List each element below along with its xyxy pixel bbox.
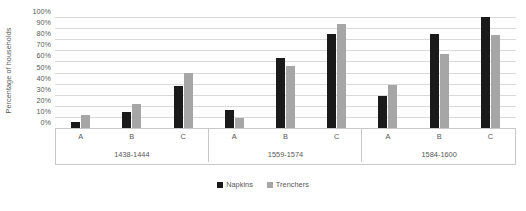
bar-napkins[interactable] bbox=[481, 17, 490, 128]
legend-item[interactable]: Trenchers bbox=[267, 180, 309, 189]
category-axis-label: B bbox=[260, 129, 311, 145]
category-axis-label: B bbox=[414, 129, 465, 145]
bar-group bbox=[362, 17, 516, 128]
legend-swatch-icon bbox=[217, 182, 223, 188]
bar-trenchers[interactable] bbox=[491, 35, 500, 128]
bar-category bbox=[414, 17, 465, 128]
chart-legend: NapkinsTrenchers bbox=[0, 180, 526, 189]
bar-trenchers[interactable] bbox=[440, 54, 449, 128]
bar-trenchers[interactable] bbox=[388, 85, 397, 128]
category-axis-label: C bbox=[157, 129, 208, 145]
bar-group bbox=[209, 17, 363, 128]
y-axis-tick: 0% bbox=[41, 119, 51, 127]
bar-category bbox=[311, 17, 362, 128]
y-axis-tick-labels: 100%90%80%70%60%50%40%30%20%10%0% bbox=[20, 12, 53, 128]
category-axis-label: A bbox=[209, 129, 260, 145]
bar-groups bbox=[55, 17, 516, 128]
y-axis-tick: 50% bbox=[37, 64, 51, 72]
group-axis-label: 1559-1574 bbox=[209, 146, 363, 164]
y-axis-title-label: Percentage of households bbox=[5, 27, 14, 113]
legend-label: Napkins bbox=[226, 180, 253, 189]
bar-trenchers[interactable] bbox=[81, 115, 90, 128]
bar-napkins[interactable] bbox=[430, 34, 439, 128]
bar-trenchers[interactable] bbox=[235, 118, 244, 128]
legend-label: Trenchers bbox=[276, 180, 309, 189]
legend-swatch-icon bbox=[267, 182, 273, 188]
category-axis-label: A bbox=[362, 129, 413, 145]
group-axis: 1438-14441559-15741584-1600 bbox=[55, 146, 516, 165]
legend-item[interactable]: Napkins bbox=[217, 180, 253, 189]
bar-napkins[interactable] bbox=[327, 34, 336, 128]
category-axis-group: ABC bbox=[362, 129, 516, 145]
category-axis-label: A bbox=[55, 129, 106, 145]
category-axis-label: C bbox=[465, 129, 516, 145]
group-axis-label: 1438-1444 bbox=[55, 146, 209, 164]
bar-category bbox=[55, 17, 106, 128]
bar-category bbox=[465, 17, 516, 128]
bar-napkins[interactable] bbox=[71, 122, 80, 128]
group-axis-label: 1584-1600 bbox=[362, 146, 516, 164]
category-axis-group: ABC bbox=[55, 129, 209, 145]
bar-category bbox=[209, 17, 260, 128]
plot-area bbox=[55, 17, 516, 129]
bar-trenchers[interactable] bbox=[132, 104, 141, 128]
bar-napkins[interactable] bbox=[378, 96, 387, 128]
y-axis-tick: 40% bbox=[37, 75, 51, 83]
y-axis-tick: 100% bbox=[33, 8, 51, 16]
bar-chart: Percentage of households 100%90%80%70%60… bbox=[0, 0, 526, 211]
bar-napkins[interactable] bbox=[225, 110, 234, 128]
category-axis-label: B bbox=[106, 129, 157, 145]
y-axis-tick: 60% bbox=[37, 52, 51, 60]
y-axis-tick: 30% bbox=[37, 86, 51, 94]
y-axis-title: Percentage of households bbox=[0, 0, 18, 140]
bar-category bbox=[260, 17, 311, 128]
y-axis-tick: 20% bbox=[37, 97, 51, 105]
bar-trenchers[interactable] bbox=[286, 66, 295, 128]
bar-category bbox=[157, 17, 208, 128]
y-axis-tick: 90% bbox=[37, 19, 51, 27]
category-axis-group: ABC bbox=[209, 129, 363, 145]
y-axis-tick: 80% bbox=[37, 30, 51, 38]
y-axis-tick: 70% bbox=[37, 41, 51, 49]
category-axis: ABCABCABC bbox=[55, 129, 516, 145]
bar-napkins[interactable] bbox=[276, 58, 285, 128]
bar-category bbox=[106, 17, 157, 128]
category-axis-label: C bbox=[311, 129, 362, 145]
bar-group bbox=[55, 17, 209, 128]
bar-category bbox=[362, 17, 413, 128]
y-axis-tick: 10% bbox=[37, 108, 51, 116]
bar-napkins[interactable] bbox=[122, 112, 131, 128]
bar-trenchers[interactable] bbox=[184, 73, 193, 129]
bar-trenchers[interactable] bbox=[337, 24, 346, 128]
bar-napkins[interactable] bbox=[174, 86, 183, 128]
